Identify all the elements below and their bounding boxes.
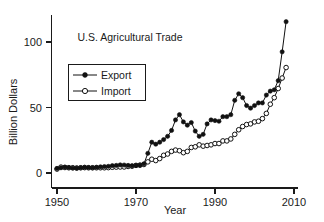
export-point-1952 [63, 165, 67, 169]
import-point-2003 [264, 111, 269, 116]
export-point-1990 [213, 119, 217, 123]
export-point-1991 [217, 119, 221, 123]
y-tick-label-0: 0 [36, 167, 42, 179]
export-point-1985 [193, 129, 197, 133]
export-point-1970 [134, 163, 138, 167]
export-point-1954 [71, 166, 75, 170]
import-point-2007 [280, 76, 285, 81]
export-point-1992 [221, 115, 225, 119]
legend-import-label: Import [101, 85, 131, 97]
export-point-1964 [110, 164, 114, 168]
export-point-1996 [237, 92, 241, 96]
chart-figure: 050100 1950197019902010 U.S. Agricultura… [0, 0, 324, 222]
import-point-2005 [272, 95, 277, 100]
export-point-2002 [260, 101, 264, 105]
export-point-1987 [201, 132, 205, 136]
export-point-1950 [55, 166, 59, 170]
import-point-1995 [232, 132, 237, 137]
export-point-1999 [248, 106, 252, 110]
export-point-2000 [252, 103, 256, 107]
export-point-1957 [83, 165, 87, 169]
x-axis-title: Year [164, 204, 187, 216]
export-point-1995 [233, 98, 237, 102]
export-point-2003 [264, 93, 268, 97]
export-point-1988 [205, 122, 209, 126]
import-point-1983 [185, 149, 190, 154]
export-point-1977 [162, 137, 166, 141]
export-point-1994 [229, 113, 233, 117]
legend-import-marker-icon [82, 88, 87, 93]
export-point-1965 [114, 163, 118, 167]
export-point-1963 [106, 164, 110, 168]
export-point-2006 [276, 79, 280, 83]
export-point-1971 [138, 163, 142, 167]
export-point-2004 [268, 89, 272, 93]
export-point-1993 [225, 115, 229, 119]
y-tick-label-50: 50 [30, 102, 42, 114]
export-point-1972 [142, 162, 146, 166]
export-point-1973 [146, 151, 150, 155]
agricultural-trade-line-chart: 050100 1950197019902010 U.S. Agricultura… [0, 0, 324, 222]
legend-export-marker-icon [83, 73, 88, 78]
x-tick-label-2010: 2010 [282, 196, 306, 208]
export-point-1961 [98, 165, 102, 169]
import-point-1976 [157, 156, 162, 161]
export-point-1979 [169, 128, 173, 132]
export-point-1989 [209, 118, 213, 122]
chart-legend: Export Import [69, 65, 146, 101]
export-point-1980 [173, 118, 177, 122]
export-point-1978 [166, 134, 170, 138]
x-tick-label-1950: 1950 [45, 196, 69, 208]
export-point-1951 [59, 166, 63, 170]
import-point-2004 [268, 102, 273, 107]
export-point-1966 [118, 163, 122, 167]
x-tick-label-1970: 1970 [124, 196, 148, 208]
export-point-2005 [272, 88, 276, 92]
export-point-1956 [79, 166, 83, 170]
export-point-1968 [126, 163, 130, 167]
export-point-1975 [154, 142, 158, 146]
export-point-1974 [150, 140, 154, 144]
y-axis-ticks: 050100 [24, 36, 52, 179]
export-point-2001 [256, 101, 260, 105]
export-point-2007 [280, 50, 284, 54]
export-point-1958 [87, 165, 91, 169]
export-point-1983 [185, 123, 189, 127]
export-point-2008 [284, 20, 288, 24]
export-point-1976 [158, 140, 162, 144]
import-point-2008 [284, 65, 289, 70]
export-point-1959 [90, 166, 94, 170]
legend-export-label: Export [101, 69, 131, 81]
x-tick-label-1990: 1990 [203, 196, 227, 208]
export-point-1986 [197, 134, 201, 138]
import-point-1996 [236, 127, 241, 132]
export-point-1984 [189, 120, 193, 124]
y-axis-title: Billion Dollars [7, 78, 19, 145]
export-point-1998 [245, 103, 249, 107]
export-point-1953 [67, 165, 71, 169]
chart-title: U.S. Agricultural Trade [77, 31, 182, 43]
export-point-1969 [130, 164, 134, 168]
export-point-1982 [181, 120, 185, 124]
import-point-2002 [260, 116, 265, 121]
export-point-1967 [122, 163, 126, 167]
import-point-1994 [229, 137, 234, 142]
export-point-1955 [75, 166, 79, 170]
export-point-1997 [241, 96, 245, 100]
export-point-1962 [102, 164, 106, 168]
export-point-1960 [94, 165, 98, 169]
export-point-1981 [177, 113, 181, 117]
y-tick-label-100: 100 [24, 36, 42, 48]
